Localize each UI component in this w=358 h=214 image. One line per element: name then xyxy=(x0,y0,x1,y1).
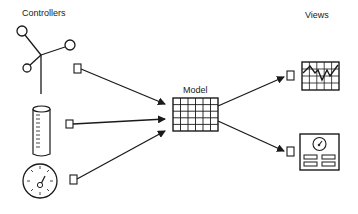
dashboard-gauge-icon xyxy=(300,134,339,170)
controller-arrows xyxy=(73,69,165,179)
dashboard-view-port xyxy=(287,147,294,156)
graduated-cylinder-icon xyxy=(33,106,50,156)
joystick-port xyxy=(74,64,81,73)
model-grid-icon xyxy=(173,98,218,131)
joystick-icon xyxy=(17,26,75,94)
view-arrows xyxy=(218,77,284,151)
chart-view-port xyxy=(287,71,294,80)
dial-gauge-icon xyxy=(23,164,57,198)
dial-port xyxy=(70,175,77,184)
controllers-label: Controllers xyxy=(22,8,66,18)
mvc-diagram xyxy=(0,0,358,214)
cylinder-port xyxy=(66,120,73,128)
views-label: Views xyxy=(305,10,329,20)
model-label: Model xyxy=(183,85,208,95)
line-chart-icon xyxy=(302,62,339,90)
